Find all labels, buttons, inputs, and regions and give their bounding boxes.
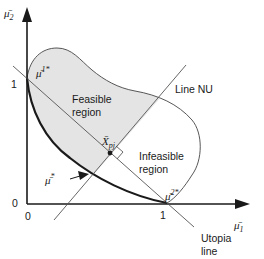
utopia-line-label-1: Utopia — [201, 232, 232, 244]
right-angle-marker — [116, 146, 123, 159]
x-tick-1: 1 — [160, 209, 166, 221]
utopia-point-dot — [108, 151, 113, 156]
y-tick-1: 1 — [11, 78, 17, 90]
feasible-region-label-1: Feasible — [72, 93, 112, 105]
feasible-region-label-2: region — [72, 106, 101, 118]
utopia-line-label-2: line — [201, 245, 218, 257]
arrowhead-icon — [78, 171, 89, 180]
infeasible-region-label-2: region — [139, 163, 168, 175]
y-tick-0: 0 — [12, 197, 18, 209]
x-axis-arrowhead-icon — [235, 199, 250, 209]
pareto-point-label: μ̄* — [44, 172, 55, 186]
normalized-constraint-diagram: μ̄2 μ̄1 1 0 0 1 μ̄1* μ̄2* μ̄* X̄pj Feasi… — [0, 0, 264, 259]
y-axis-arrowhead-icon — [22, 7, 32, 22]
pareto-point-arrow — [70, 176, 80, 179]
x-axis-label: μ̄1 — [233, 219, 244, 234]
y-axis-label: μ̄2 — [3, 7, 14, 22]
infeasible-region-label-1: Infeasible — [139, 150, 184, 162]
x-tick-0: 0 — [25, 210, 31, 222]
line-nu-label: Line NU — [175, 83, 213, 95]
